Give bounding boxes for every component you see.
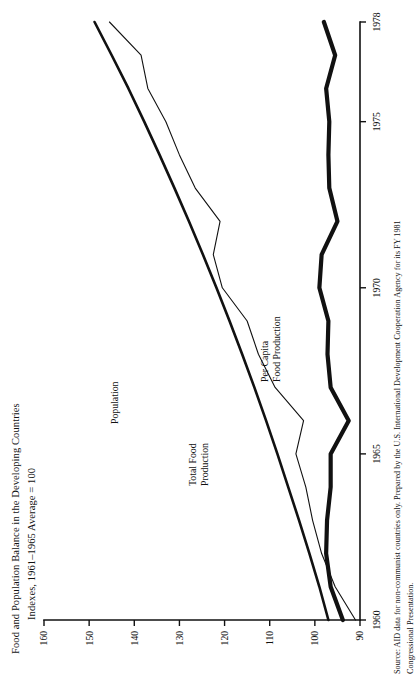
series-labels-group: PopulationTotal FoodProductionPer Capita… <box>109 316 282 486</box>
y-tick-label: 90 <box>354 631 365 641</box>
source-note-line1: Source: AID data for non-communist count… <box>393 220 402 674</box>
y-tick-label: 100 <box>309 631 320 646</box>
series-line-per-capita-food-production <box>319 22 348 620</box>
y-tick-label: 160 <box>38 631 49 646</box>
series-label-population: Population <box>109 381 120 424</box>
chart-figure: Food and Population Balance in the Devel… <box>0 0 417 682</box>
y-axis-ticks: 90100110120130140150160 <box>38 620 365 645</box>
y-tick-label: 130 <box>174 631 185 646</box>
source-note-line2: Congressional Presentation. <box>406 583 415 674</box>
x-tick-label: 1970 <box>371 278 382 297</box>
y-tick-label: 140 <box>129 631 140 646</box>
axes-group <box>44 22 360 620</box>
x-tick-label: 1978 <box>371 12 382 31</box>
y-tick-label: 150 <box>84 631 95 646</box>
rotated-figure-canvas: Food and Population Balance in the Devel… <box>0 0 417 682</box>
y-tick-label: 110 <box>264 631 275 645</box>
x-tick-label: 1960 <box>371 610 382 629</box>
series-line-population <box>95 22 329 620</box>
figure-body: Food and Population Balance in the Devel… <box>0 0 417 682</box>
x-tick-label: 1975 <box>371 112 382 131</box>
y-tick-label: 120 <box>219 631 230 646</box>
x-tick-label: 1965 <box>371 444 382 463</box>
x-axis-ticks: 19601965197019751978 <box>360 12 382 629</box>
series-line-total-food-production <box>109 22 355 620</box>
series-label-line: Population <box>109 381 120 424</box>
series-label-line: Per Capita <box>259 340 270 382</box>
series-label-total-food-production: Total FoodProduction <box>187 443 210 486</box>
series-label-line: Total Food <box>187 443 198 486</box>
series-label-line: Production <box>199 443 210 486</box>
series-label-per-capita-food-production: Per CapitaFood Production <box>259 316 282 382</box>
series-group <box>95 22 356 620</box>
plot-area: 19601965197019751978 9010011012013014015… <box>0 0 417 682</box>
series-label-line: Food Production <box>271 316 282 382</box>
